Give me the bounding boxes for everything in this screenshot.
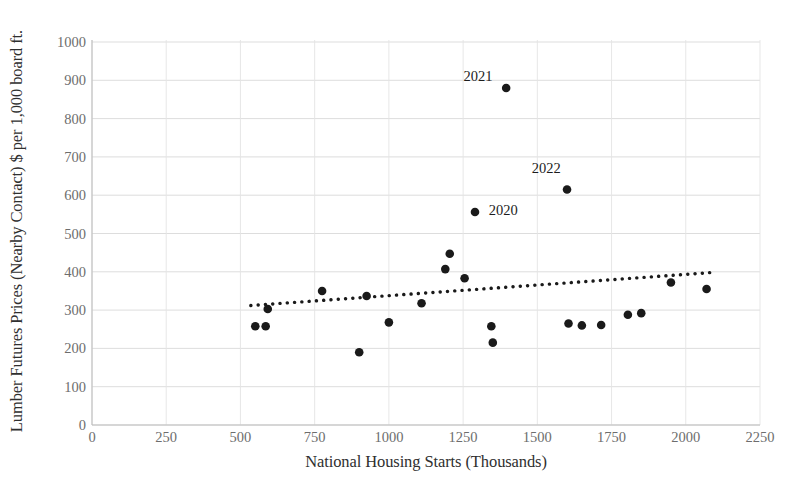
data-point — [251, 322, 260, 331]
data-point — [460, 274, 469, 283]
data-point — [441, 265, 450, 274]
x-axis-tick-label: 2000 — [671, 429, 700, 446]
gridlines — [92, 40, 760, 425]
plot-canvas — [0, 0, 793, 495]
data-point — [564, 319, 573, 328]
data-point — [385, 318, 394, 327]
data-point — [263, 305, 272, 314]
x-axis-tick-label: 500 — [230, 429, 252, 446]
data-point — [578, 321, 587, 330]
data-point — [355, 348, 364, 357]
data-point — [624, 310, 633, 319]
axis-lines — [92, 40, 760, 425]
data-point — [563, 185, 572, 194]
x-axis-tick-label: 0 — [88, 429, 95, 446]
data-point — [637, 309, 646, 318]
data-point-label: 2022 — [532, 159, 561, 176]
data-point-label: 2020 — [489, 201, 518, 218]
x-axis-tick-label: 1500 — [523, 429, 552, 446]
data-points — [251, 84, 711, 357]
x-axis-tick-label: 2250 — [746, 429, 775, 446]
data-point — [261, 322, 270, 331]
data-point — [471, 208, 480, 217]
data-point-label: 2021 — [463, 67, 492, 84]
data-point — [702, 285, 711, 294]
data-point — [489, 338, 498, 347]
x-axis-tick-label: 1250 — [449, 429, 478, 446]
x-axis-tick-label: 750 — [304, 429, 326, 446]
data-point — [318, 287, 327, 296]
data-point — [502, 84, 511, 93]
x-axis-title: National Housing Starts (Thousands) — [92, 452, 760, 472]
scatter-chart-figure: Lumber Futures Prices (Nearby Contact) $… — [0, 0, 793, 495]
data-point — [362, 292, 371, 301]
data-point — [597, 321, 606, 330]
data-point — [667, 278, 676, 287]
data-point — [417, 299, 426, 308]
x-axis-tick-label: 1000 — [374, 429, 403, 446]
data-point — [445, 249, 454, 258]
x-axis-tick-label: 250 — [155, 429, 177, 446]
x-axis-tick-label: 1750 — [597, 429, 626, 446]
data-point — [487, 322, 496, 331]
